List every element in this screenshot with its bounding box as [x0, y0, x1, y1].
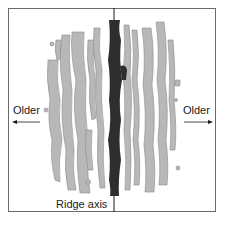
arrow-left-icon	[12, 120, 40, 124]
ridge-axis-band	[108, 20, 122, 196]
right-stripes	[123, 22, 180, 192]
arrow-right-icon	[184, 120, 213, 124]
older-right-label: Older	[183, 105, 210, 116]
left-stripes	[44, 28, 105, 193]
older-left-label: Older	[13, 105, 40, 116]
ridge-axis-label: Ridge axis	[56, 199, 107, 210]
